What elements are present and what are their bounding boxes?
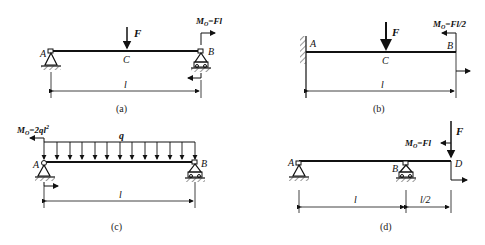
point-label-a: A	[32, 159, 40, 170]
figure-c: q A B MO=2ql2 l (c)	[16, 124, 207, 233]
point-label-b: B	[208, 46, 214, 57]
caption-b: (b)	[373, 103, 385, 115]
beam-diagrams: F A B C MO=Fl l (a) F A B C MO=Fl/2 l (b…	[0, 0, 485, 245]
load-label: q	[119, 130, 124, 141]
roller-support-icon	[396, 161, 416, 182]
point-label-a: A	[39, 48, 47, 59]
length-label: l	[124, 79, 127, 90]
length-label: l/2	[420, 194, 431, 205]
moment-label: MO=2ql2	[16, 124, 49, 136]
point-label-c: C	[382, 55, 389, 66]
point-label-a: A	[287, 157, 295, 168]
length-label: l	[354, 194, 357, 205]
caption-c: (c)	[111, 221, 122, 233]
force-label: F	[133, 27, 142, 39]
caption-d: (d)	[380, 221, 392, 233]
point-label-b: B	[447, 40, 453, 51]
force-label: F	[455, 125, 464, 137]
moment-arrow-icon	[188, 73, 201, 78]
moment-label: MO=Fl	[404, 138, 431, 149]
point-label-d: D	[454, 158, 463, 169]
figure-b: F A B C MO=Fl/2 l (b)	[300, 19, 470, 115]
caption-a: (a)	[116, 103, 127, 115]
distributed-load-icon	[44, 142, 195, 159]
figure-d: F MO=Fl A B D l l/2 (d)	[287, 121, 467, 233]
moment-label: MO=Fl	[195, 16, 222, 27]
length-label: l	[119, 189, 122, 200]
point-label-a: A	[309, 38, 317, 49]
moment-arrow-icon	[30, 138, 44, 142]
fixed-support-icon	[300, 36, 306, 98]
point-label-b: B	[392, 163, 398, 174]
length-label: l	[381, 79, 384, 90]
figure-a: F A B C MO=Fl l (a)	[39, 16, 222, 115]
moment-arrow-icon	[201, 33, 215, 45]
force-label: F	[391, 26, 400, 38]
point-label-b: B	[201, 158, 207, 169]
moment-label: MO=Fl/2	[432, 19, 466, 30]
moment-arrow-icon	[44, 182, 58, 186]
point-label-c: C	[123, 54, 130, 65]
